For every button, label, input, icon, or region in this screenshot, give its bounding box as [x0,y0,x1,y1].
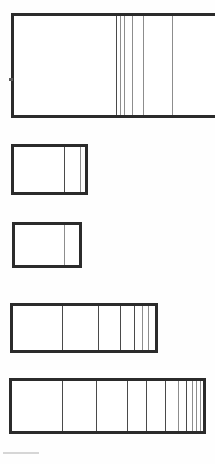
bar-row-4-partition-5 [142,306,143,350]
bar-row-2-partition-1 [64,147,65,192]
bar-row-5-partition-3 [127,381,128,431]
bar-row-4-partition-1 [62,306,63,350]
bar-row-2-segments [14,147,85,192]
bar-row-4-segments [13,306,155,350]
bar-row-4-partition-2 [98,306,99,350]
bar-row-1-partition-1 [116,16,117,115]
bar-row-3 [12,222,82,268]
bar-row-5-partition-7 [186,381,187,431]
baseline-smudge [3,452,39,454]
bar-row-1-partition-4 [132,16,133,115]
bar-row-1-segments [14,16,215,115]
bar-row-5-partition-8 [192,381,193,431]
bar-row-5-partition-9 [196,381,197,431]
bar-row-5-partition-1 [62,381,63,431]
bar-row-1-partition-6 [172,16,173,115]
bar-row-5-partition-5 [165,381,166,431]
bar-row-3-segments [15,225,79,265]
bar-row-4 [10,303,158,353]
bar-row-4-partition-3 [120,306,121,350]
bar-row-5-partition-2 [96,381,97,431]
bar-row-4-partition-4 [134,306,135,350]
bar-row-3-partition-1 [64,225,65,265]
edge-tick-mark [9,78,13,81]
bar-row-5-partition-4 [146,381,147,431]
bar-row-5 [9,378,206,434]
bar-row-1-partition-3 [124,16,125,115]
bar-row-2-partition-2 [80,147,81,192]
bar-row-5-partition-10 [200,381,201,431]
bar-row-4-partition-6 [148,306,149,350]
bar-row-1-partition-5 [143,16,144,115]
bar-row-2 [11,144,88,195]
diagram-canvas [0,0,215,464]
bar-row-5-partition-6 [178,381,179,431]
bar-row-5-segments [12,381,203,431]
bar-row-1-partition-2 [120,16,121,115]
bar-row-1 [11,13,215,118]
